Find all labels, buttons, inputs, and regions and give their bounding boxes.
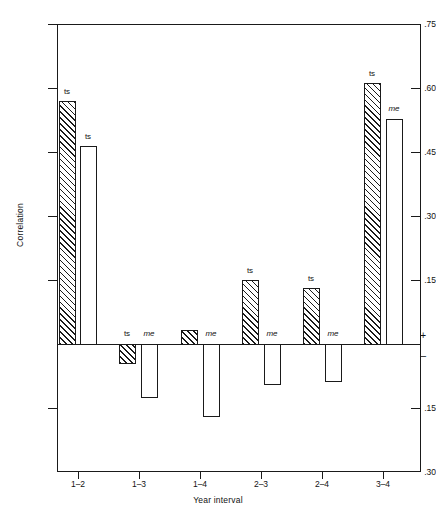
- y-tick-label-minus: –: [392, 350, 426, 361]
- x-tick-label-1-2: 1–2: [48, 479, 108, 489]
- bar-label-3-4-me: me: [374, 104, 414, 113]
- x-axis-title: Year interval: [0, 495, 436, 505]
- bar-label-1-3-me: me: [129, 329, 169, 338]
- bar-1-2-me: [80, 146, 97, 345]
- y-tick-015: [48, 280, 58, 281]
- y-tick-label-neg030: .30: [392, 467, 436, 477]
- x-tick-1-4: [200, 472, 201, 479]
- bar-label-2-3-ts: ts: [230, 266, 270, 275]
- bar-2-4-me: [325, 344, 342, 382]
- x-tick-1-3: [139, 472, 140, 479]
- bar-label-1-4-me: me: [191, 329, 231, 338]
- x-tick-1-2: [78, 472, 79, 479]
- y-tick-neg015: [48, 408, 58, 409]
- x-tick-2-3: [261, 472, 262, 479]
- y-tick-045: [48, 152, 58, 153]
- y-tick-label-neg015: .15: [392, 403, 436, 413]
- bar-chart-figure: Correlation .75 .60 .45 .30 .15 + – .15 …: [0, 0, 436, 519]
- x-tick-label-1-3: 1–3: [109, 479, 169, 489]
- bar-label-1-2-me: ts: [68, 132, 108, 141]
- x-tick-label-3-4: 3–4: [353, 479, 413, 489]
- bar-3-4-ts: [364, 83, 381, 345]
- bar-label-3-4-ts: ts: [352, 69, 392, 78]
- bar-label-1-2-ts: ts: [47, 87, 87, 96]
- bar-label-2-4-ts: ts: [291, 274, 331, 283]
- x-tick-label-2-3: 2–3: [231, 479, 291, 489]
- y-tick-030: [48, 216, 58, 217]
- x-tick-label-1-4: 1–4: [170, 479, 230, 489]
- x-tick-3-4: [383, 472, 384, 479]
- bar-1-3-me: [141, 344, 158, 398]
- y-tick-label-075: .75: [392, 19, 436, 29]
- x-tick-label-2-4: 2–4: [292, 479, 352, 489]
- bar-2-3-me: [264, 344, 281, 385]
- bar-3-4-me: [386, 119, 403, 345]
- y-axis-title: Correlation: [15, 175, 25, 275]
- bar-label-2-3-me: me: [252, 329, 292, 338]
- bar-label-2-4-me: me: [313, 329, 353, 338]
- y-tick-075: [48, 24, 58, 25]
- bar-1-3-ts: [119, 344, 136, 364]
- x-tick-2-4: [322, 472, 323, 479]
- y-tick-label-060: .60: [392, 83, 436, 93]
- bar-1-4-me: [203, 344, 220, 417]
